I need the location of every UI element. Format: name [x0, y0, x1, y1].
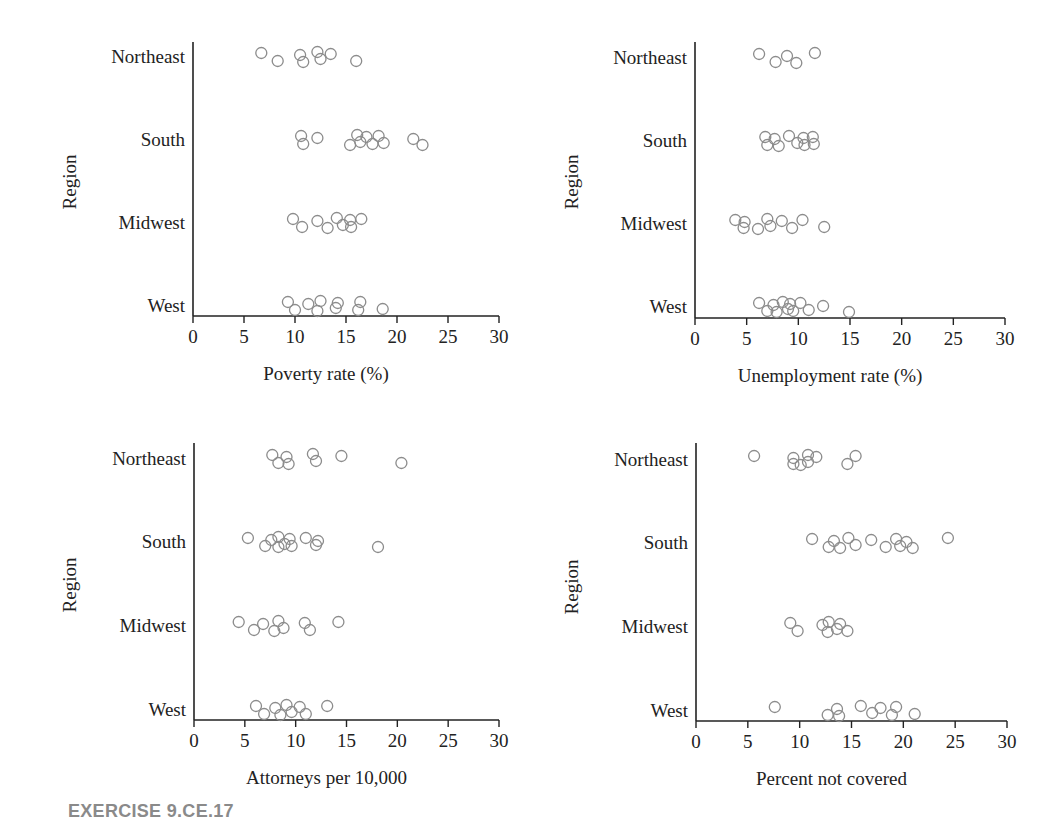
- data-point-west: [832, 704, 843, 715]
- data-point-midwest: [233, 617, 244, 628]
- row-label-northeast: Northeast: [614, 449, 689, 470]
- data-point-west: [353, 305, 364, 316]
- row-label-northeast: Northeast: [111, 46, 186, 67]
- x-tick-label: 15: [337, 326, 356, 347]
- data-point-northeast: [791, 58, 802, 69]
- x-tick-label: 10: [790, 731, 809, 752]
- data-point-south: [843, 533, 854, 544]
- data-point-northeast: [256, 48, 267, 59]
- data-point-midwest: [765, 221, 776, 232]
- data-point-midwest: [792, 626, 803, 637]
- data-point-northeast: [809, 48, 820, 59]
- y-axis-title: Region: [561, 154, 582, 209]
- dot-plot-figure: 051015202530Poverty rate (%)RegionNorthe…: [0, 0, 1060, 838]
- x-tick-label: 30: [998, 731, 1017, 752]
- data-point-south: [835, 543, 846, 554]
- x-axis-title: Attorneys per 10,000: [246, 767, 407, 788]
- data-point-west: [867, 708, 878, 719]
- data-point-midwest: [797, 215, 808, 226]
- data-point-south: [866, 535, 877, 546]
- x-tick-label: 5: [743, 731, 753, 752]
- x-tick-label: 15: [337, 730, 356, 751]
- x-axis-title: Poverty rate (%): [263, 363, 389, 385]
- panel-percent-not-covered: 051015202530Percent not coveredRegionNor…: [561, 443, 1017, 789]
- panel-unemployment-rate: 051015202530Unemployment rate (%)RegionN…: [561, 42, 1015, 387]
- data-point-west: [300, 709, 311, 720]
- data-point-northeast: [749, 451, 760, 462]
- x-tick-label: 5: [742, 328, 752, 349]
- data-point-northeast: [336, 451, 347, 462]
- panel-poverty-rate: 051015202530Poverty rate (%)RegionNorthe…: [59, 42, 509, 385]
- row-label-south: South: [142, 531, 187, 552]
- data-point-west: [290, 305, 301, 316]
- data-point-west: [322, 701, 333, 712]
- x-tick-label: 25: [439, 326, 458, 347]
- data-point-south: [345, 140, 356, 151]
- data-point-midwest: [312, 216, 323, 227]
- data-point-midwest: [346, 222, 357, 233]
- x-tick-label: 25: [946, 731, 965, 752]
- data-point-south: [312, 133, 323, 144]
- x-tick-label: 0: [188, 326, 198, 347]
- data-point-west: [855, 701, 866, 712]
- row-label-midwest: Midwest: [120, 615, 187, 636]
- panel-attorneys-per-10-000: 051015202530Attorneys per 10,000RegionNo…: [59, 443, 509, 788]
- row-label-west: West: [147, 295, 185, 316]
- data-point-northeast: [272, 56, 283, 67]
- data-point-northeast: [283, 459, 294, 470]
- data-point-south: [942, 533, 953, 544]
- data-point-midwest: [819, 222, 830, 233]
- data-point-south: [907, 543, 918, 554]
- data-point-west: [803, 305, 814, 316]
- data-point-south: [373, 542, 384, 553]
- x-tick-label: 0: [690, 328, 700, 349]
- row-label-south: South: [644, 532, 689, 553]
- data-point-west: [294, 702, 305, 713]
- x-tick-label: 30: [490, 730, 509, 751]
- row-label-west: West: [650, 700, 688, 721]
- data-point-west: [355, 297, 366, 308]
- data-point-northeast: [281, 452, 292, 463]
- x-tick-label: 10: [789, 328, 808, 349]
- x-tick-label: 30: [490, 326, 509, 347]
- data-point-south: [417, 140, 428, 151]
- data-point-west: [259, 709, 270, 720]
- data-point-northeast: [396, 458, 407, 469]
- data-point-south: [242, 533, 253, 544]
- data-point-midwest: [776, 216, 787, 227]
- data-point-west: [875, 703, 886, 714]
- row-label-northeast: Northeast: [112, 448, 187, 469]
- row-label-northeast: Northeast: [613, 47, 688, 68]
- data-point-northeast: [754, 49, 765, 60]
- y-axis-title: Region: [59, 154, 80, 209]
- row-label-west: West: [148, 699, 186, 720]
- data-point-midwest: [356, 214, 367, 225]
- x-tick-label: 10: [286, 326, 305, 347]
- data-point-west: [315, 296, 326, 307]
- data-point-west: [769, 702, 780, 713]
- data-point-south: [286, 541, 297, 552]
- row-label-west: West: [649, 296, 687, 317]
- data-point-midwest: [762, 214, 773, 225]
- data-point-south: [298, 139, 309, 150]
- data-point-midwest: [331, 213, 342, 224]
- data-point-northeast: [273, 458, 284, 469]
- row-label-south: South: [643, 130, 688, 151]
- y-axis-title: Region: [561, 559, 582, 614]
- data-point-midwest: [258, 619, 269, 630]
- exercise-label: EXERCISE 9.CE.17: [68, 801, 234, 822]
- x-tick-label: 10: [286, 730, 305, 751]
- x-tick-label: 15: [842, 731, 861, 752]
- data-point-south: [762, 140, 773, 151]
- y-axis-title: Region: [59, 557, 80, 612]
- data-point-northeast: [351, 56, 362, 67]
- data-point-west: [844, 307, 855, 318]
- x-tick-label: 20: [892, 328, 911, 349]
- data-point-northeast: [311, 456, 322, 467]
- x-tick-label: 0: [691, 731, 701, 752]
- x-tick-label: 0: [189, 730, 199, 751]
- data-point-midwest: [322, 223, 333, 234]
- data-point-south: [300, 533, 311, 544]
- data-point-south: [266, 535, 277, 546]
- data-point-south: [313, 536, 324, 547]
